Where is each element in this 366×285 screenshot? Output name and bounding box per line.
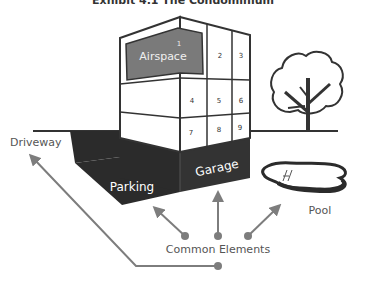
unit-2-number: 2	[218, 52, 222, 60]
diagram-title: Exhibit 4.1 The Condominium	[92, 0, 274, 7]
unit-3-number: 3	[239, 52, 243, 60]
driveway-label: Driveway	[10, 136, 62, 149]
unit-4-number: 4	[190, 97, 195, 105]
unit-5-number: 5	[217, 97, 221, 105]
unit-1-number: 1	[177, 40, 181, 48]
condominium-diagram: Exhibit 4.1 The Condominium 1 Airspace 2…	[0, 0, 366, 285]
arrow-to-parking	[157, 210, 185, 236]
unit-9-number: 9	[238, 124, 242, 132]
arrow-to-pool	[248, 208, 277, 236]
unit-7-number: 7	[189, 129, 193, 137]
unit-6-number: 6	[239, 97, 244, 105]
tree-icon	[271, 52, 343, 131]
building	[120, 17, 250, 152]
pool-label: Pool	[309, 204, 332, 217]
airspace-label: Airspace	[139, 50, 187, 63]
pool-icon	[263, 163, 346, 191]
common-elements-label: Common Elements	[166, 243, 271, 256]
unit-8-number: 8	[217, 126, 221, 134]
parking-label: Parking	[110, 180, 155, 194]
